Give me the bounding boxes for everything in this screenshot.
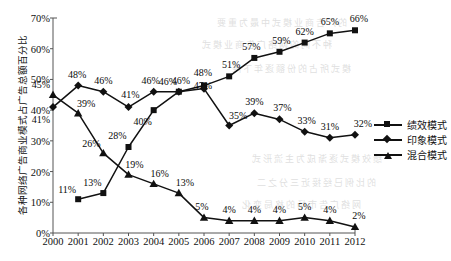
- data-point-label: 65%: [321, 16, 339, 27]
- legend-label-impression: 印象模式: [407, 132, 447, 147]
- data-point-label: 16%: [150, 167, 168, 178]
- legend-marker-square-icon: [374, 119, 402, 131]
- data-point-label: 66%: [350, 13, 368, 24]
- data-point-label: 32%: [354, 117, 372, 128]
- legend-label-hybrid: 混合模式: [407, 147, 447, 162]
- legend-item-impression[interactable]: 印象模式: [374, 132, 447, 147]
- data-point-label: 33%: [297, 114, 315, 125]
- data-point-label: 39%: [77, 98, 95, 109]
- data-point-label: 5%: [195, 200, 208, 211]
- data-point-label: 59%: [272, 34, 290, 45]
- legend-marker-triangle-icon: [374, 149, 402, 161]
- data-point-label: 46%: [94, 74, 112, 85]
- data-point-label: 46%: [172, 74, 190, 85]
- data-point-label: 51%: [222, 59, 240, 70]
- data-point-label: 13%: [176, 177, 194, 188]
- data-point-label: 37%: [273, 102, 291, 113]
- data-point-label: 41%: [121, 89, 139, 100]
- data-point-label: 11%: [58, 184, 76, 195]
- legend-label-performance: 绩效模式: [407, 117, 447, 132]
- data-point-label: 4%: [248, 203, 261, 214]
- data-point-label: 62%: [295, 25, 313, 36]
- chart-legend: 绩效模式 印象模式 混合模式: [374, 117, 447, 162]
- legend-item-performance[interactable]: 绩效模式: [374, 117, 447, 132]
- legend-marker-diamond-icon: [374, 134, 402, 146]
- data-point-label: 45%: [32, 78, 50, 89]
- data-point-label: 2%: [352, 209, 365, 220]
- data-point-label: 41%: [32, 114, 50, 125]
- data-point-label: 5%: [298, 200, 311, 211]
- data-point-label: 19%: [125, 158, 143, 169]
- data-point-label: 35%: [229, 109, 247, 120]
- data-point-label: 39%: [245, 96, 263, 107]
- data-point-label: 31%: [321, 120, 339, 131]
- chart-container: 的广告商业模式中最为重要 种不同的网络广告商业模式 模式所占的份额逐年下降 绩效…: [0, 0, 451, 261]
- data-point-label: 4%: [222, 203, 235, 214]
- data-point-label: 28%: [108, 130, 126, 141]
- data-point-label: 13%: [83, 177, 101, 188]
- data-point-label: 26%: [82, 138, 100, 149]
- data-point-label: 48%: [194, 66, 212, 77]
- data-point-label: 48%: [68, 68, 86, 79]
- legend-item-hybrid[interactable]: 混合模式: [374, 147, 447, 162]
- data-point-label: 40%: [133, 116, 151, 127]
- data-point-label: 57%: [242, 40, 260, 51]
- data-point-label: 4%: [323, 203, 336, 214]
- data-point-label: 46%: [141, 74, 159, 85]
- data-point-label: 4%: [273, 203, 286, 214]
- data-point-label: 47%: [194, 79, 212, 90]
